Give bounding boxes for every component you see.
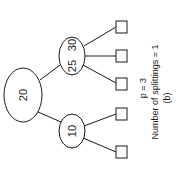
leaf-node: [116, 78, 127, 90]
root-key: 20: [17, 89, 29, 101]
edge-left-leaf4: [84, 114, 116, 126]
edge-right-leaf1: [84, 27, 116, 46]
right-node-key-b: 30: [66, 39, 78, 51]
p-label: p = 3: [138, 78, 148, 98]
left-node-key: 10: [66, 125, 78, 137]
figure-label: (b): [162, 92, 172, 103]
b-tree-diagram: 20 25 30 10 p = 3 Number of splittings =…: [0, 0, 188, 170]
leaf-node: [116, 146, 127, 158]
leaf-node: [116, 21, 127, 33]
edge-root-right: [40, 65, 60, 80]
splittings-label: Number of splittings = 1: [150, 45, 160, 140]
edge-right-leaf3: [83, 65, 116, 83]
right-node-key-a: 25: [66, 60, 78, 72]
leaf-node: [116, 108, 127, 120]
edge-root-left: [38, 112, 61, 122]
leaf-node: [116, 50, 127, 62]
edge-left-leaf5: [83, 138, 116, 152]
